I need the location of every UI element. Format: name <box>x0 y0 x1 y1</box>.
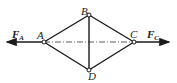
joint-c <box>132 40 136 44</box>
label-a: A <box>36 29 44 41</box>
member-bc <box>89 15 134 42</box>
label-d: D <box>87 70 96 82</box>
member-cd <box>89 42 134 70</box>
label-fa: FA <box>11 28 24 42</box>
truss-diagram: A B C D FA FC <box>0 0 177 83</box>
member-da <box>44 42 89 70</box>
label-b: B <box>81 5 88 17</box>
label-c: C <box>130 28 138 40</box>
members <box>44 15 134 70</box>
member-ab <box>44 15 89 42</box>
label-fc: FC <box>146 28 159 42</box>
